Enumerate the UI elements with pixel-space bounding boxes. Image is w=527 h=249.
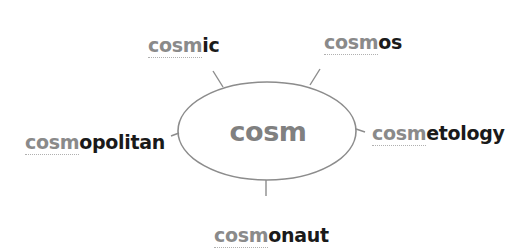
branch-word-cosmetology: cosmetology <box>372 124 505 143</box>
word-suffix: opolitan <box>79 131 165 153</box>
center-root-word: cosm <box>230 118 307 145</box>
word-prefix: cosm <box>148 34 202 58</box>
branch-word-cosmos: cosmos <box>324 33 402 52</box>
word-suffix: etology <box>426 122 504 144</box>
branch-word-cosmopolitan: cosmopolitan <box>25 133 165 152</box>
word-suffix: os <box>378 31 402 53</box>
word-prefix: cosm <box>25 131 79 155</box>
branch-word-cosmonaut: cosmonaut <box>214 226 329 245</box>
word-prefix: cosm <box>372 122 426 146</box>
word-suffix: ic <box>202 34 219 56</box>
branch-word-cosmic: cosmic <box>148 36 219 55</box>
word-prefix: cosm <box>324 31 378 55</box>
connector-cosmetology <box>356 129 365 132</box>
word-prefix: cosm <box>214 224 268 248</box>
connector-cosmos <box>310 69 320 85</box>
word-suffix: onaut <box>268 224 329 246</box>
connector-cosmic <box>213 71 223 87</box>
